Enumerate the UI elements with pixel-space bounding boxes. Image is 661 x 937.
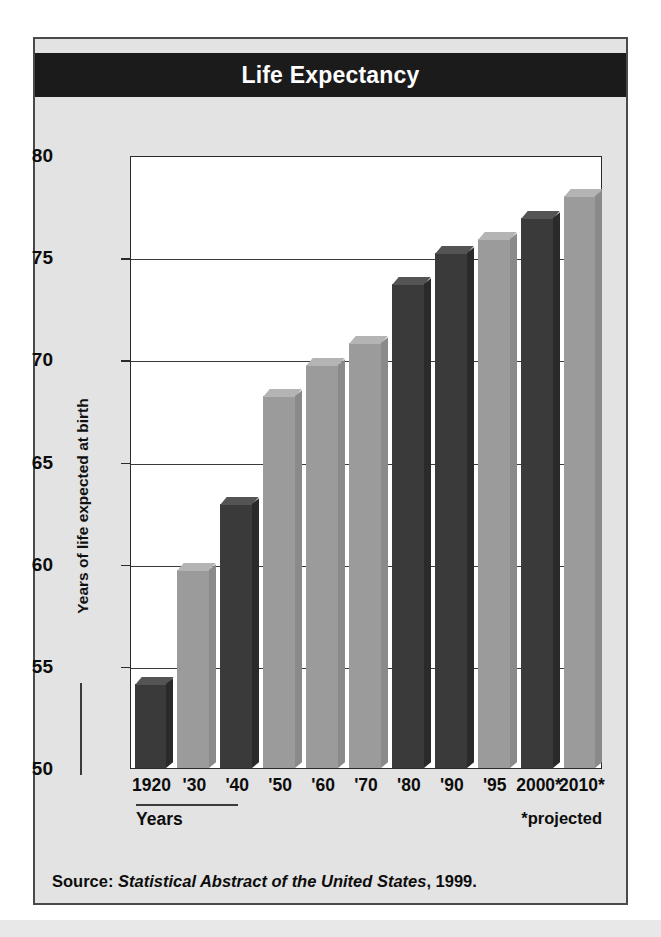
y-tick-mark — [121, 258, 130, 260]
bar — [135, 684, 167, 768]
bar-side-face — [295, 390, 302, 768]
y-tick-label: 60 — [0, 554, 53, 576]
bar-side-face — [209, 564, 216, 768]
y-tick-label: 55 — [0, 656, 53, 678]
y-axis-title: Years of life expected at birth — [74, 376, 92, 636]
bar — [564, 196, 596, 768]
bar — [435, 253, 467, 768]
bar — [349, 343, 381, 768]
chart-card: Life Expectancy Years of life expected a… — [33, 37, 628, 905]
source-prefix: Source: — [52, 872, 118, 890]
y-tick-mark — [121, 565, 130, 567]
years-underline — [136, 804, 238, 806]
bar-front-face — [478, 239, 510, 768]
bar-side-face — [424, 278, 431, 768]
bar — [521, 218, 553, 768]
y-axis-title-rule — [80, 683, 82, 775]
source-title: Statistical Abstract of the United State… — [118, 872, 426, 890]
bar-side-face — [166, 678, 173, 768]
bar-front-face — [564, 196, 596, 768]
x-axis-label: Years — [136, 809, 183, 830]
y-tick-label: 80 — [0, 145, 53, 167]
bar — [177, 570, 209, 768]
bar-front-face — [220, 504, 252, 768]
bar-side-face — [510, 233, 517, 768]
y-tick-label: 75 — [0, 247, 53, 269]
source-suffix: , 1999. — [426, 872, 476, 890]
page-title: Life Expectancy — [241, 62, 419, 89]
x-tick-label: '90 — [430, 775, 473, 796]
page-bottom-band — [0, 920, 661, 937]
y-tick-mark — [121, 463, 130, 465]
y-tick-label: 65 — [0, 452, 53, 474]
x-tick-label: '70 — [345, 775, 388, 796]
x-tick-label: '30 — [173, 775, 216, 796]
bar-front-face — [306, 365, 338, 768]
bar-front-face — [521, 218, 553, 768]
x-tick-label: 1920 — [130, 775, 173, 796]
bar-front-face — [177, 570, 209, 768]
bar-side-face — [595, 190, 602, 768]
x-tick-label: '50 — [259, 775, 302, 796]
y-tick-mark — [121, 667, 130, 669]
bar-side-face — [553, 212, 560, 768]
bar-front-face — [263, 396, 295, 768]
bar-series — [131, 157, 601, 768]
bar — [392, 284, 424, 768]
x-tick-label: '60 — [302, 775, 345, 796]
bar — [478, 239, 510, 768]
bar-side-face — [467, 247, 474, 768]
x-tick-label: '95 — [473, 775, 516, 796]
bar-front-face — [349, 343, 381, 768]
source-note: Source: Statistical Abstract of the Unit… — [52, 872, 477, 891]
x-tick-label: 2000* — [516, 775, 559, 796]
y-tick-mark — [121, 360, 130, 362]
x-tick-label: '40 — [216, 775, 259, 796]
bar-front-face — [392, 284, 424, 768]
x-tick-label: 2010* — [559, 775, 602, 796]
bar-front-face — [435, 253, 467, 768]
projected-note: *projected — [521, 809, 602, 828]
x-tick-label: '80 — [387, 775, 430, 796]
chart-area: Years of life expected at birth 50556065… — [35, 97, 626, 857]
bar-side-face — [252, 499, 259, 768]
plot-frame — [130, 156, 602, 769]
bar — [306, 365, 338, 768]
bar — [263, 396, 295, 768]
bar — [220, 504, 252, 768]
bar-side-face — [381, 337, 388, 768]
y-tick-label: 70 — [0, 349, 53, 371]
title-banner: Life Expectancy — [35, 53, 626, 97]
bar-side-face — [338, 360, 345, 768]
y-tick-label: 50 — [0, 758, 53, 780]
bar-front-face — [135, 684, 167, 768]
